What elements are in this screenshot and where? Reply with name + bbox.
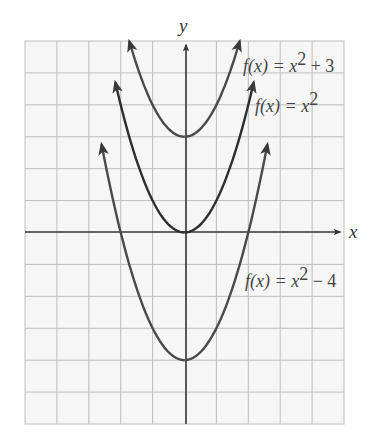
- x-axis-label: x: [348, 221, 358, 242]
- y-axis-label: y: [177, 15, 188, 36]
- parabola-graph: x y f(x) = x2 + 3 f(x) = x2 f(x) = x2 − …: [0, 0, 378, 443]
